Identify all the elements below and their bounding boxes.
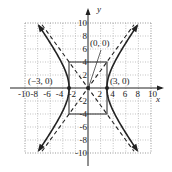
y-tick-label: 2	[83, 70, 88, 80]
y-axis-label: y	[96, 4, 101, 14]
hyperbola-graph: y x -10-8-6-4-2246810108642-2-4-6-8-10 (…	[0, 0, 172, 172]
origin-pointer	[89, 50, 101, 86]
vertex-left	[67, 86, 71, 90]
y-tick-label: 8	[83, 31, 88, 41]
x-axis-arrow-icon	[157, 86, 164, 91]
x-tick-label: -2	[68, 89, 76, 99]
center-point	[86, 86, 90, 90]
x-tick-label: -10	[18, 89, 30, 99]
arrowhead-icon	[38, 144, 45, 152]
y-tick-label: -6	[80, 122, 88, 132]
point-label-left-vertex: (−3, 0)	[28, 76, 53, 86]
vertex-right	[105, 86, 109, 90]
x-tick-label: 4	[110, 89, 115, 99]
arrowhead-icon	[131, 24, 138, 32]
x-tick-label: -8	[31, 89, 39, 99]
x-tick-label: 6	[123, 89, 128, 99]
y-tick-label: -8	[80, 135, 88, 145]
arrowhead-icon	[38, 24, 45, 32]
x-tick-label: 2	[98, 89, 103, 99]
point-label-origin: (0, 0)	[90, 38, 110, 48]
x-tick-label: 8	[135, 89, 140, 99]
point-label-right-vertex: (3, 0)	[110, 76, 130, 86]
y-tick-label: -2	[80, 96, 88, 106]
y-tick-label: -10	[75, 148, 87, 158]
y-tick-label: 6	[83, 44, 88, 54]
x-tick-label: -6	[43, 89, 51, 99]
y-tick-label: 4	[83, 57, 88, 67]
y-tick-label: -4	[80, 109, 88, 119]
y-axis-arrow-icon	[86, 8, 91, 15]
y-tick-label: 10	[78, 18, 88, 28]
x-tick-label: -4	[56, 89, 64, 99]
arrowhead-icon	[131, 144, 138, 152]
x-tick-label: 10	[148, 89, 158, 99]
